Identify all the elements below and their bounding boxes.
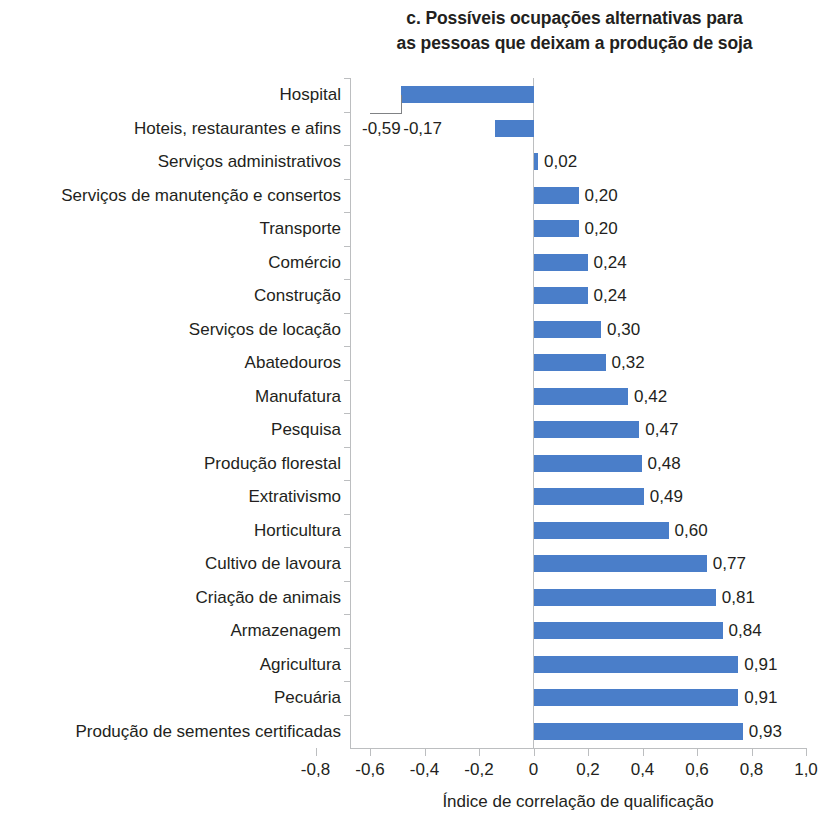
x-axis-tick-label: 0,4 — [631, 760, 655, 780]
category-label: Hospital — [0, 78, 341, 112]
bar-value-label: 0,81 — [722, 581, 755, 615]
x-axis-tick — [643, 748, 644, 756]
x-axis-tick — [752, 748, 753, 756]
bar-value-label: -0,17 — [403, 112, 442, 146]
bar-value-label: 0,30 — [607, 313, 640, 347]
bar-value-label: 0,42 — [634, 380, 667, 414]
category-label: Armazenagem — [0, 614, 341, 648]
category-label: Pecuária — [0, 681, 341, 715]
category-label: Pesquisa — [0, 413, 341, 447]
bar-row: Serviços administrativos0,02 — [0, 145, 819, 179]
bar — [534, 589, 716, 606]
bar — [534, 723, 743, 740]
y-axis-tick — [344, 648, 351, 649]
bar-row: Cultivo de lavoura0,77 — [0, 547, 819, 581]
bar-value-label: 0,47 — [645, 413, 678, 447]
y-axis-tick — [344, 179, 351, 180]
bar — [534, 488, 644, 505]
category-label: Abatedouros — [0, 346, 341, 380]
x-axis-tick-label: 1,0 — [794, 760, 818, 780]
y-axis-tick — [344, 212, 351, 213]
category-label: Serviços de manutenção e consertos — [0, 179, 341, 213]
category-label: Cultivo de lavoura — [0, 547, 341, 581]
category-label: Comércio — [0, 246, 341, 280]
bar-row: Hoteis, restaurantes e afins-0,17 — [0, 112, 819, 146]
bar-row: Agricultura0,91 — [0, 648, 819, 682]
chart-title-line-2: as pessoas que deixam a produção de soja — [330, 31, 819, 56]
bar — [534, 388, 629, 405]
y-axis-tick — [344, 313, 351, 314]
bar — [401, 86, 534, 103]
y-axis-tick — [344, 279, 351, 280]
y-axis-tick — [344, 715, 351, 716]
bar-value-label: 0,84 — [729, 614, 762, 648]
x-axis-line — [350, 748, 806, 749]
bar-row: Pesquisa0,47 — [0, 413, 819, 447]
y-axis-tick — [344, 447, 351, 448]
category-label: Serviços de locação — [0, 313, 341, 347]
category-label: Hoteis, restaurantes e afins — [0, 112, 341, 146]
bar — [495, 120, 533, 137]
bar-row: Transporte0,20 — [0, 212, 819, 246]
x-axis-tick — [316, 748, 317, 756]
bar-row: Armazenagem0,84 — [0, 614, 819, 648]
bar-row: Serviços de locação0,30 — [0, 313, 819, 347]
bar-row: Comércio0,24 — [0, 246, 819, 280]
category-label: Manufatura — [0, 380, 341, 414]
bar — [534, 254, 588, 271]
x-axis-tick — [697, 748, 698, 756]
chart-title-line-1: c. Possíveis ocupações alternativas para — [330, 6, 819, 31]
bar-value-label: 0,91 — [744, 681, 777, 715]
category-label: Transporte — [0, 212, 341, 246]
bar — [534, 153, 539, 170]
bar-value-label: 0,24 — [594, 246, 627, 280]
category-label: Construção — [0, 279, 341, 313]
category-label: Extrativismo — [0, 480, 341, 514]
category-label: Produção de sementes certificadas — [0, 715, 341, 749]
bar-value-label: 0,60 — [675, 514, 708, 548]
x-axis-tick-label: 0,8 — [740, 760, 764, 780]
bar-row: Serviços de manutenção e consertos0,20 — [0, 179, 819, 213]
bar-value-label: 0,77 — [713, 547, 746, 581]
x-axis-tick-label: 0 — [529, 760, 538, 780]
y-axis-tick — [344, 581, 351, 582]
x-axis-tick-label: -0,8 — [301, 760, 330, 780]
bar-value-label: 0,48 — [648, 447, 681, 481]
y-axis-tick — [344, 78, 351, 79]
y-axis-tick — [344, 480, 351, 481]
bar-row: Pecuária0,91 — [0, 681, 819, 715]
chart-title: c. Possíveis ocupações alternativas para… — [330, 6, 819, 56]
bar-row: Horticultura0,60 — [0, 514, 819, 548]
x-axis-tick-label: -0,6 — [355, 760, 384, 780]
bar-value-label: 0,24 — [594, 279, 627, 313]
x-axis-tick — [479, 748, 480, 756]
x-axis-tick — [370, 748, 371, 756]
bar-chart: c. Possíveis ocupações alternativas para… — [0, 0, 819, 830]
x-axis-tick-label: 0,6 — [685, 760, 709, 780]
bar — [534, 622, 723, 639]
y-axis-tick — [344, 145, 351, 146]
category-label: Agricultura — [0, 648, 341, 682]
y-axis-tick — [344, 413, 351, 414]
x-axis-tick-label: 0,2 — [576, 760, 600, 780]
bar-row: Produção florestal0,48 — [0, 447, 819, 481]
x-axis-tick — [425, 748, 426, 756]
y-axis-tick — [344, 514, 351, 515]
category-label: Horticultura — [0, 514, 341, 548]
x-axis-tick — [806, 748, 807, 756]
y-axis-tick — [344, 614, 351, 615]
bar — [534, 220, 579, 237]
bar-row: Manufatura0,42 — [0, 380, 819, 414]
category-label: Serviços administrativos — [0, 145, 341, 179]
category-label: Produção florestal — [0, 447, 341, 481]
bar-row: Hospital-0,59 — [0, 78, 819, 112]
bar — [534, 656, 739, 673]
y-axis-tick — [344, 346, 351, 347]
x-axis-tick-label: -0,4 — [410, 760, 439, 780]
bar — [534, 522, 669, 539]
bar — [534, 455, 642, 472]
category-label: Criação de animais — [0, 581, 341, 615]
bar-value-label: 0,49 — [650, 480, 683, 514]
bar — [534, 421, 640, 438]
bar-value-label: 0,91 — [744, 648, 777, 682]
